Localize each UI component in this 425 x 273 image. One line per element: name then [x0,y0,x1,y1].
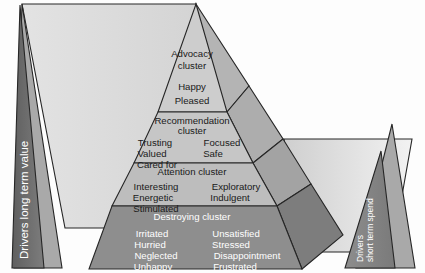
destroying-left-3: Unhappy [134,261,173,272]
attention-left-0: Interesting [134,181,179,192]
destroying-left-0: Irritated [136,228,169,239]
diagram-canvas: Drivers long term value Drivers short te… [0,0,425,273]
advocacy-title-line1: Advocacy [171,48,213,59]
destroying-left-1: Hurried [134,239,165,250]
right-axis-label-line2: short term spend [365,198,375,262]
recommendation-title-line2: cluster [178,125,207,136]
pyramid-diagram-svg: Drivers long term value Drivers short te… [0,0,425,273]
destroying-right-0: Unsatisfied [212,228,259,239]
destroying-left-2: Neglected [134,250,177,261]
destroying-right-3: Frustrated [213,261,257,272]
advocacy-item-0: Happy [178,81,206,92]
recommendation-left-0: Trusting [138,137,172,148]
right-axis-label-line1: Drivers [355,235,365,262]
recommendation-right-1: Safe [203,148,223,159]
destroying-title-line1: Destroying cluster [154,211,232,222]
advocacy-item-1: Pleased [175,95,210,106]
left-axis-label: Drivers long term value [18,141,30,259]
attention-title-line1: Attention cluster [158,166,228,177]
recommendation-left-1: Valued [137,148,166,159]
advocacy-title-line2: cluster [178,60,207,71]
attention-right-1: Indulgent [210,192,250,203]
destroying-right-2: Disappointment [214,250,281,261]
attention-right-0: Exploratory [212,181,261,192]
destroying-right-1: Stressed [212,239,250,250]
attention-left-1: Energetic [133,192,174,203]
recommendation-right-0: Focused [204,137,241,148]
